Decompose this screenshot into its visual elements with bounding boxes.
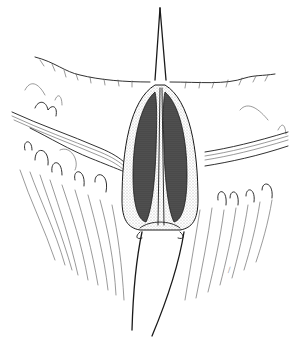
incision-wound <box>122 85 198 239</box>
surgical-illustration <box>0 0 299 347</box>
right-vessel-band <box>205 132 288 166</box>
top-suture <box>155 8 166 80</box>
illustration-canvas: — <box>0 0 299 347</box>
bottom-sutures <box>132 232 184 336</box>
left-vessel-band <box>12 102 125 172</box>
